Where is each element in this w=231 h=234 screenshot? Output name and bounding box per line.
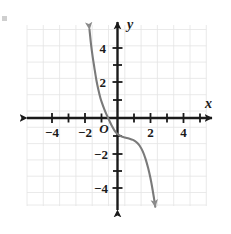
- y-axis-label: y: [125, 17, 134, 32]
- x-tick-label-pos2: 2: [147, 125, 154, 140]
- page-corner-mark: [2, 16, 7, 21]
- coordinate-plane-figure: −4 −2 2 4 4 2 −2 −4 O y x: [0, 0, 231, 234]
- x-tick-label-pos4: 4: [180, 125, 187, 140]
- y-tick-label-pos4: 4: [100, 41, 107, 56]
- y-tick-label-pos2: 2: [100, 75, 107, 90]
- x-axis-label: x: [204, 96, 212, 111]
- y-tick-label-neg4: −4: [94, 181, 108, 196]
- graph-svg: −4 −2 2 4 4 2 −2 −4 O y x: [0, 0, 231, 234]
- x-tick-label-neg4: −4: [45, 125, 59, 140]
- y-tick-label-neg2: −2: [94, 147, 108, 162]
- origin-label: O: [99, 121, 109, 136]
- x-tick-label-neg2: −2: [78, 125, 92, 140]
